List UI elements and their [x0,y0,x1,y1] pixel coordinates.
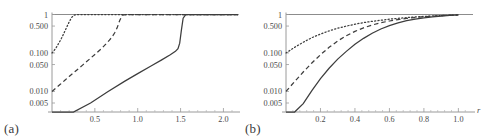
y-axis-tick-label: 0.050 [264,61,282,70]
y-axis-tick-label: 0.050 [30,61,48,70]
y-axis-tick-label: 1 [44,11,48,20]
figure-panel-pair: 10.5000.1000.0500.0100.0050.51.01.52.0r … [0,0,482,139]
y-axis-tick-label: 0.005 [30,99,48,108]
x-axis-tick-label: 1.5 [175,115,185,124]
x-axis-tick-label: 0.4 [350,115,360,124]
panel-label-b: (b) [245,121,261,137]
y-axis-tick-label: 0.100 [264,49,282,58]
x-axis-tick-label: 0.6 [384,115,394,124]
y-axis-tick-label: 0.010 [30,87,48,96]
chart-panel-b: 10.5000.1000.0500.0100.0050.20.40.60.81.… [241,0,482,139]
chart-panel-a: 10.5000.1000.0500.0100.0050.51.01.52.0r … [0,0,241,139]
plot-area-b: 10.5000.1000.0500.0100.0050.20.40.60.81.… [241,0,482,139]
panel-label-a: (a) [4,121,19,137]
x-axis-tick-label: 2.0 [218,115,228,124]
x-axis-tick-label: 1.0 [133,115,143,124]
curve-dashed [52,15,238,92]
y-axis-tick-label: 0.500 [30,22,48,31]
curve-solid [52,15,238,113]
y-axis-tick-label: 0.010 [264,87,282,96]
y-axis-tick-label: 1 [278,11,282,20]
y-axis-tick-label: 0.100 [30,49,48,58]
x-axis-tick-label: 0.5 [90,115,100,124]
plot-area-a: 10.5000.1000.0500.0100.0050.51.01.52.0r [0,0,241,139]
y-axis-tick-label: 0.005 [264,99,282,108]
curve-dotted [52,15,238,53]
x-axis-tick-label: 1.0 [453,115,463,124]
curve-dashed [286,15,458,91]
x-axis-title: r [477,105,481,115]
x-axis-tick-label: 0.8 [419,115,429,124]
y-axis-tick-label: 0.500 [264,22,282,31]
x-axis-tick-label: 0.2 [315,115,325,124]
